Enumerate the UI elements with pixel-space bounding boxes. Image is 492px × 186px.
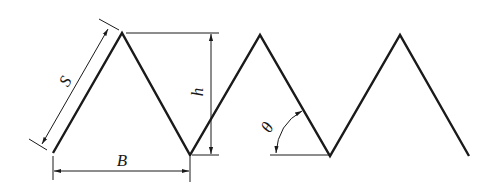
b-label: B [117, 151, 128, 170]
zigzag-diagram: S h B θ [0, 0, 492, 186]
theta-angle: θ [257, 111, 330, 155]
s-label: S [55, 72, 76, 89]
zigzag-profile [53, 33, 469, 156]
h-dimension: h [126, 33, 219, 155]
b-dimension: B [53, 151, 190, 182]
s-dimension: S [29, 19, 119, 150]
theta-label: θ [257, 119, 278, 136]
h-label: h [188, 88, 207, 97]
